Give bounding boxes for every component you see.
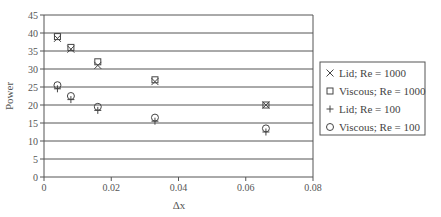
legend-label: Lid; Re = 1000: [339, 67, 407, 79]
y-tick-label: 10: [28, 136, 38, 147]
y-tick-label: 45: [28, 10, 38, 21]
y-tick-label: 35: [28, 46, 38, 57]
x-marker-icon: [54, 35, 61, 42]
data-points: [54, 34, 269, 136]
x-marker-icon: [94, 62, 101, 69]
x-tick-label: 0.04: [170, 182, 188, 193]
scatter-chart: 051015202530354045 00.020.040.060.08 Pow…: [0, 0, 441, 217]
x-tick-label: 0.06: [237, 182, 255, 193]
y-tick-label: 25: [28, 82, 38, 93]
x-marker-icon: [151, 78, 158, 85]
y-tick-label: 15: [28, 118, 38, 129]
y-tick-label: 30: [28, 64, 38, 75]
x-marker-icon: [67, 46, 74, 53]
legend-label: Viscous; Re = 100: [339, 121, 421, 133]
y-axis-ticks: 051015202530354045: [28, 10, 44, 183]
axes: [44, 15, 313, 177]
legend-label: Viscous; Re = 1000: [339, 85, 426, 97]
legend: Lid; Re = 1000Viscous; Re = 1000Lid; Re …: [320, 62, 426, 135]
legend-label: Lid; Re = 100: [339, 103, 401, 115]
y-axis-title: Power: [3, 82, 15, 110]
x-tick-label: 0.02: [103, 182, 121, 193]
x-axis-title: Δx: [173, 199, 186, 211]
y-tick-label: 5: [33, 154, 38, 165]
y-tick-label: 20: [28, 100, 38, 111]
x-tick-label: 0: [42, 182, 47, 193]
y-tick-label: 0: [33, 172, 38, 183]
grid-lines: [44, 15, 313, 159]
y-tick-label: 40: [28, 28, 38, 39]
x-tick-label: 0.08: [304, 182, 322, 193]
x-axis-ticks: 00.020.040.060.08: [42, 177, 322, 193]
